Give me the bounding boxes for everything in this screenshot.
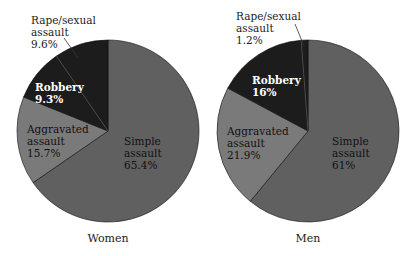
men-simple-label-line2: assault — [332, 147, 370, 159]
men-rape-label-line2: assault — [236, 22, 274, 34]
men-robbery-label: Robbery — [252, 74, 302, 86]
men-rape-label-line1: Rape/sexual — [236, 10, 301, 22]
men-caption: Men — [296, 232, 321, 245]
chart-root: Rape/sexual assault 9.6% Robbery 9.3% Ag… — [0, 0, 414, 256]
women-robbery-pct: 9.3% — [35, 93, 63, 105]
men-simple-pct: 61% — [332, 159, 355, 171]
men-simple-label-line1: Simple — [332, 135, 369, 147]
women-aggravated-label-line1: Aggravated — [26, 123, 89, 135]
women-rape-label-line2: assault — [31, 26, 69, 38]
women-simple-pct: 65.4% — [124, 159, 157, 171]
men-aggravated-label-line2: assault — [227, 137, 265, 149]
men-robbery-pct: 16% — [252, 86, 277, 98]
men-aggravated-label-line1: Aggravated — [226, 125, 289, 137]
women-caption: Women — [87, 232, 128, 245]
women-rape-label-line1: Rape/sexual — [31, 14, 96, 26]
women-robbery-label: Robbery — [35, 81, 85, 93]
men-aggravated-pct: 21.9% — [227, 149, 260, 161]
women-rape-pct: 9.6% — [31, 38, 58, 50]
women-aggravated-pct: 15.7% — [27, 147, 60, 159]
women-simple-label-line1: Simple — [124, 135, 161, 147]
women-aggravated-label-line2: assault — [27, 135, 65, 147]
women-simple-label-line2: assault — [124, 147, 162, 159]
men-rape-pct: 1.2% — [236, 34, 263, 46]
